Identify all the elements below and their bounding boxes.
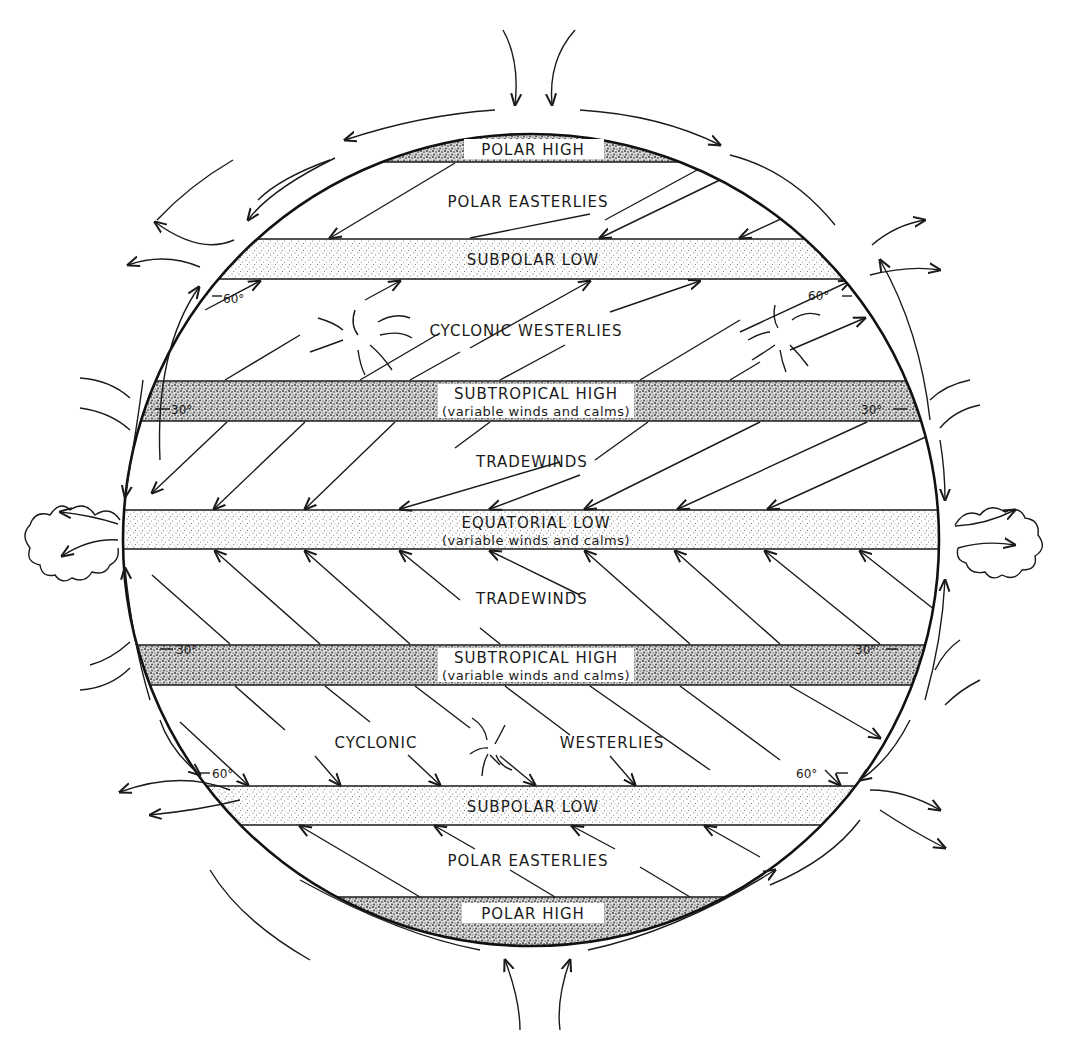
label-subpolar-low-south: SUBPOLAR LOW	[467, 798, 599, 816]
label-subtropical-high-south: SUBTROPICAL HIGH	[454, 649, 618, 667]
cyclone-north-left-icon	[310, 310, 412, 375]
cloud-left-icon	[25, 506, 120, 581]
label-polar-high-south: POLAR HIGH	[481, 905, 585, 923]
label-polar-high-north: POLAR HIGH	[481, 141, 585, 159]
latitude-30n-right: 30°	[861, 403, 882, 417]
label-equatorial-low-sub: (variable winds and calms)	[442, 533, 630, 548]
label-polar-easterlies-south: POLAR EASTERLIES	[447, 852, 608, 870]
latitude-60s-left: 60°	[212, 767, 233, 781]
label-tradewinds-north: TRADEWINDS	[475, 453, 588, 471]
label-subtropical-high-north-sub: (variable winds and calms)	[442, 404, 630, 419]
label-subpolar-low-north: SUBPOLAR LOW	[467, 251, 599, 269]
latitude-30s-left: 30°	[176, 643, 197, 657]
label-subtropical-high-south-sub: (variable winds and calms)	[442, 668, 630, 683]
label-tradewinds-south: TRADEWINDS	[475, 590, 588, 608]
label-cyclonic-westerlies-north: CYCLONIC WESTERLIES	[429, 322, 622, 340]
latitude-30s-right: 30°	[855, 643, 876, 657]
latitude-60n-left: 60°	[223, 292, 244, 306]
label-equatorial-low: EQUATORIAL LOW	[461, 514, 610, 532]
latitude-60s-right: 60°	[796, 767, 817, 781]
cyclone-south-icon	[470, 718, 512, 776]
cloud-right-icon	[955, 508, 1042, 578]
label-westerlies-south: WESTERLIES	[560, 734, 665, 752]
label-subtropical-high-north: SUBTROPICAL HIGH	[454, 385, 618, 403]
latitude-30n-left: 30°	[171, 403, 192, 417]
global-wind-belts-diagram: 60° 60° 30° 30° 30° 30° 60° 60° POLAR HI…	[0, 0, 1069, 1058]
label-cyclonic-south: CYCLONIC	[335, 734, 418, 752]
latitude-60n-right: 60°	[808, 289, 829, 303]
label-polar-easterlies-north: POLAR EASTERLIES	[447, 193, 608, 211]
cyclonic-westerlies-south-arrows	[180, 686, 880, 785]
